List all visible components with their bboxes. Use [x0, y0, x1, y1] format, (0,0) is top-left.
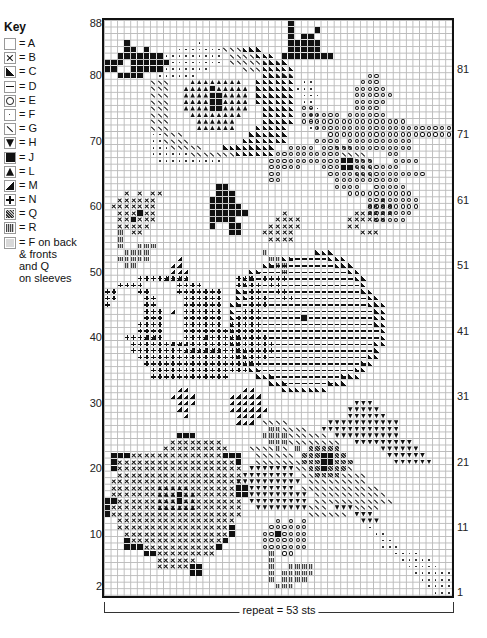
legend-item-label: = H	[19, 136, 36, 148]
legend-item-label: = N	[19, 193, 36, 205]
legend-item-n: = N	[2, 193, 97, 207]
row-label-right: 71	[457, 128, 469, 140]
legend-item-label: = E	[19, 94, 36, 106]
legend-item-r: = R	[2, 221, 97, 235]
row-label-left: 2	[84, 580, 102, 592]
row-label-left: 60	[84, 200, 102, 212]
down-triangle-icon	[4, 137, 16, 149]
dot-icon	[4, 109, 16, 121]
row-label-left: 20	[84, 462, 102, 474]
legend-item-g: = G	[2, 122, 97, 136]
chart-grid	[104, 20, 452, 596]
row-label-left: 50	[84, 266, 102, 278]
legend-item-h: = H	[2, 136, 97, 150]
legend-item-l: = L	[2, 165, 97, 179]
row-label-left: 10	[84, 528, 102, 540]
triangle-lower-right-icon	[4, 180, 16, 192]
row-label-left: 30	[84, 397, 102, 409]
row-label-right: 61	[457, 194, 469, 206]
legend-item-label: = G	[19, 122, 37, 134]
legend-item-a: = A	[2, 37, 97, 51]
row-label-left: 70	[84, 135, 102, 147]
legend-item-label: = L	[19, 165, 35, 177]
legend-item-label: = R	[19, 221, 36, 233]
circle-icon	[4, 95, 16, 107]
legend-item-q: = Q	[2, 207, 97, 221]
row-label-left: 88	[84, 17, 102, 29]
legend-item-label: = J	[19, 151, 34, 163]
legend-item-label: = Q	[19, 207, 37, 219]
triangle-lower-left-icon	[4, 66, 16, 78]
legend-item-e: = E	[2, 94, 97, 108]
legend-item-m: = M	[2, 179, 97, 193]
dash-icon	[4, 81, 16, 93]
row-label-right: 31	[457, 390, 469, 402]
legend-items: = A= B= C= D= E= F= G= H= J= L= M= N= Q=…	[2, 37, 97, 284]
legend-item-j: = J	[2, 151, 97, 165]
vertical-bars-icon	[4, 222, 16, 234]
repeat-bracket: repeat = 53 sts	[104, 602, 454, 613]
legend-item-s: = F on back & fronts and Q on sleeves	[2, 236, 97, 284]
legend-item-c: = C	[2, 65, 97, 79]
row-label-right: 51	[457, 259, 469, 271]
row-label-right: 1	[457, 586, 463, 598]
shaded-square-icon	[4, 237, 16, 249]
up-triangle-icon	[4, 166, 16, 178]
cross-icon	[4, 52, 16, 64]
row-label-right: 41	[457, 325, 469, 337]
legend-item-label: = A	[19, 37, 35, 49]
row-label-right: 21	[457, 456, 469, 468]
filled-square-icon	[4, 152, 16, 164]
diagonal-line-icon	[4, 123, 16, 135]
legend-item-d: = D	[2, 80, 97, 94]
legend: Key = A= B= C= D= E= F= G= H= J= L= M= N…	[2, 20, 97, 284]
legend-item-b: = B	[2, 51, 97, 65]
legend-item-label: = D	[19, 80, 36, 92]
legend-item-label: = B	[19, 51, 36, 63]
row-label-left: 80	[84, 69, 102, 81]
repeat-label: repeat = 53 sts	[239, 604, 318, 616]
legend-item-label: = M	[19, 179, 38, 191]
crosshatch-icon	[4, 208, 16, 220]
legend-item-label: = F	[19, 108, 35, 120]
blank-square-icon	[4, 38, 16, 50]
legend-item-label: = F on back & fronts and Q on sleeves	[19, 236, 77, 284]
row-label-left: 40	[84, 331, 102, 343]
legend-item-f: = F	[2, 108, 97, 122]
row-label-right: 11	[457, 521, 468, 533]
row-label-right: 81	[457, 63, 469, 75]
plus-icon	[4, 194, 16, 206]
knitting-chart	[102, 18, 454, 598]
legend-item-label: = C	[19, 65, 36, 77]
